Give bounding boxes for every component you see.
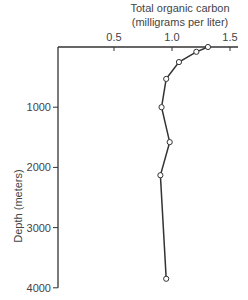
- y-tick-label: 1000: [27, 101, 51, 113]
- x-tick-label: 1.5: [222, 31, 237, 43]
- plot-area: 0.51.01.51000200030004000: [0, 0, 248, 300]
- data-point-marker: [205, 44, 210, 49]
- y-tick-label: 3000: [27, 222, 51, 234]
- data-point-marker: [159, 105, 164, 110]
- x-tick-label: 0.5: [106, 31, 121, 43]
- data-point-marker: [164, 76, 169, 81]
- y-tick-label: 2000: [27, 161, 51, 173]
- data-point-marker: [164, 276, 169, 281]
- data-point-marker: [176, 59, 181, 64]
- data-line: [160, 47, 208, 279]
- y-tick-label: 4000: [27, 282, 51, 294]
- data-point-marker: [158, 173, 163, 178]
- data-point-marker: [194, 49, 199, 54]
- data-point-marker: [167, 140, 172, 145]
- x-tick-label: 1.0: [164, 31, 179, 43]
